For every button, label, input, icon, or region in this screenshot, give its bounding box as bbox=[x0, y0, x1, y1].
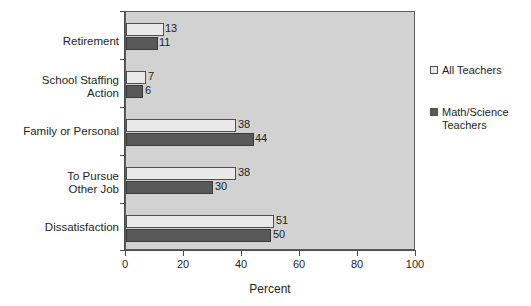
legend-swatch-icon-math-science-teachers bbox=[430, 108, 438, 116]
bar-math-science-to-pursue-other-job bbox=[126, 181, 213, 194]
x-axis-tick bbox=[241, 251, 242, 256]
category-label-family-or-personal: Family or Personal bbox=[0, 125, 119, 138]
y-axis-line bbox=[124, 11, 125, 251]
value-label-all-teachers-retirement: 13 bbox=[165, 22, 177, 35]
x-axis-line bbox=[124, 250, 416, 251]
x-axis-tick bbox=[299, 251, 300, 256]
bar-math-science-retirement bbox=[126, 37, 158, 50]
category-label-school-staffing-action: School Staffing Action bbox=[0, 74, 119, 99]
x-axis-tick bbox=[415, 251, 416, 256]
value-label-math-science-retirement: 11 bbox=[159, 36, 170, 49]
x-axis-tick-label-20: 20 bbox=[163, 258, 203, 270]
bar-math-science-dissatisfaction bbox=[126, 229, 271, 242]
value-label-math-science-family-or-personal: 44 bbox=[255, 132, 267, 145]
value-label-all-teachers-school-staffing-action: 7 bbox=[148, 70, 154, 83]
bar-math-science-school-staffing-action bbox=[126, 85, 143, 98]
bar-chart: Retirement School Staffing Action Family… bbox=[0, 0, 531, 306]
y-axis-tick bbox=[120, 59, 125, 60]
value-label-all-teachers-family-or-personal: 38 bbox=[238, 118, 250, 131]
x-axis-tick-label-40: 40 bbox=[221, 258, 261, 270]
x-axis-title: Percent bbox=[125, 282, 415, 296]
category-axis-labels: Retirement School Staffing Action Family… bbox=[0, 11, 119, 250]
y-axis-tick bbox=[120, 203, 125, 204]
bar-all-teachers-retirement bbox=[126, 23, 164, 36]
x-axis-tick bbox=[183, 251, 184, 256]
x-axis-tick bbox=[357, 251, 358, 256]
legend-label-math-science-teachers: Math/Science Teachers bbox=[442, 106, 509, 131]
x-axis-tick-label-60: 60 bbox=[279, 258, 319, 270]
x-axis-tick-label-0: 0 bbox=[105, 258, 145, 270]
value-label-all-teachers-dissatisfaction: 51 bbox=[276, 214, 288, 227]
y-axis-tick bbox=[120, 11, 125, 12]
y-axis-tick bbox=[120, 107, 125, 108]
category-label-retirement: Retirement bbox=[0, 35, 119, 48]
category-label-to-pursue-other-job: To Pursue Other Job bbox=[0, 170, 119, 195]
value-label-math-science-to-pursue-other-job: 30 bbox=[215, 180, 227, 193]
bar-all-teachers-dissatisfaction bbox=[126, 215, 274, 228]
bar-math-science-family-or-personal bbox=[126, 133, 254, 146]
bar-all-teachers-school-staffing-action bbox=[126, 71, 146, 84]
x-axis-tick bbox=[125, 251, 126, 256]
x-axis-tick-label-100: 100 bbox=[395, 258, 435, 270]
bar-all-teachers-to-pursue-other-job bbox=[126, 167, 236, 180]
value-label-math-science-school-staffing-action: 6 bbox=[145, 84, 151, 97]
value-label-math-science-dissatisfaction: 50 bbox=[273, 228, 285, 241]
y-axis-tick bbox=[120, 155, 125, 156]
value-label-all-teachers-to-pursue-other-job: 38 bbox=[238, 166, 250, 179]
legend-swatch-icon-all-teachers bbox=[430, 66, 438, 74]
bar-all-teachers-family-or-personal bbox=[126, 119, 236, 132]
legend-label-all-teachers: All Teachers bbox=[442, 64, 502, 77]
x-axis-tick-label-80: 80 bbox=[337, 258, 377, 270]
category-label-dissatisfaction: Dissatisfaction bbox=[0, 221, 119, 234]
